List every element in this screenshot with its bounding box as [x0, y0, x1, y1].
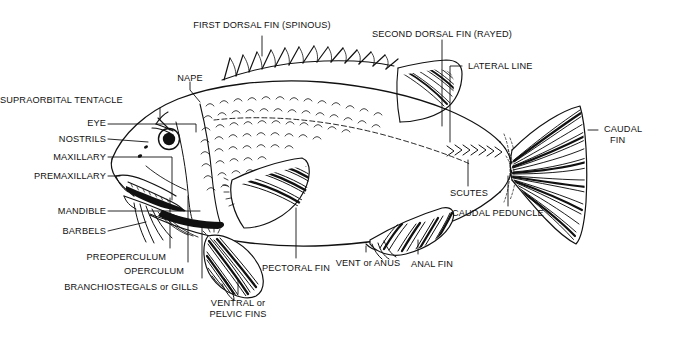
label-maxillary: MAXILLARY [0, 152, 106, 163]
label-operculum: OPERCULUM [58, 266, 184, 277]
label-ventral-pelvic-fins-line2: PELVIC FINS [188, 309, 288, 320]
label-premaxillary: PREMAXILLARY [0, 171, 106, 182]
label-lateral-line: LATERAL LINE [468, 61, 588, 72]
supraorbital-tentacle [152, 112, 173, 133]
label-scutes: SCUTES [436, 188, 502, 199]
label-caudal-fin-line1: CAUDAL [604, 124, 674, 135]
lateral-line-curve [214, 118, 470, 164]
pectoral-fin [223, 154, 314, 228]
label-caudal-peduncle: CAUDAL PEDUNCLE [452, 208, 592, 219]
nostrils [137, 145, 148, 159]
label-nape: NAPE [150, 73, 230, 84]
scutes [447, 145, 502, 157]
label-anal-fin: ANAL FIN [392, 259, 472, 270]
label-eye: EYE [0, 118, 106, 129]
anal-fin [370, 208, 454, 259]
label-ventral-pelvic-fins-line1: VENTRAL or [188, 298, 288, 309]
label-barbels: BARBELS [0, 226, 106, 237]
label-supraorbital-tentacle: SUPRAORBITAL TENTACLE [0, 95, 106, 106]
caudal-fin [506, 106, 587, 244]
mouth-and-jaws [116, 175, 190, 221]
label-preoperculum: PREOPERCULUM [40, 252, 166, 263]
label-second-dorsal-fin: SECOND DORSAL FIN (RAYED) [330, 29, 554, 40]
label-caudal-fin-line2: FIN [610, 135, 680, 146]
label-nostrils: NOSTRILS [0, 134, 106, 145]
fish-anatomy-diagram: FIRST DORSAL FIN (SPINOUS) SECOND DORSAL… [0, 0, 683, 339]
eye [159, 129, 180, 150]
label-branchiostegals-or-gills: BRANCHIOSTEGALS or GILLS [26, 282, 198, 293]
first-dorsal-fin [222, 46, 398, 80]
label-mandible: MANDIBLE [0, 206, 106, 217]
